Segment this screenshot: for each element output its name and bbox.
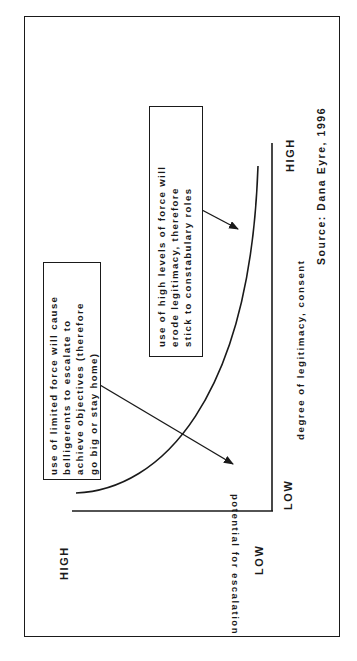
annotation-box-high-force: use of high levels of force will erode l… [149,106,203,357]
annotation-line: use of high levels of force will [155,166,168,347]
source-credit: Source: Dana Eyre, 1996 [316,107,327,265]
y-axis-title: potential for escalation [230,494,241,635]
annotation-box-limited-force: use of limited force will cause belliger… [43,262,101,480]
annotation-text-limited-force: use of limited force will cause belliger… [47,296,100,475]
annotation-line: use of limited force will cause [47,296,60,475]
annotation-line: belligerents to escalate to [60,296,73,475]
x-axis-high-label: HIGH [284,138,296,172]
annotation-line: stick to constabulary roles [181,166,194,347]
arrow-high-force [202,210,238,229]
annotation-line: achieve objectives (therefore [73,296,86,475]
escalation-legitimacy-diagram: use of limited force will cause belliger… [0,0,357,661]
annotation-line: go big or stay home) [87,296,100,475]
annotation-line: erode legitimacy, therefore [168,166,181,347]
annotation-text-high-force: use of high levels of force will erode l… [155,166,195,347]
x-axis-low-label: LOW [282,480,294,510]
y-axis-high-label: HIGH [58,546,70,580]
x-axis-title: degree of legitimacy, consent [295,259,306,440]
y-axis-low-label: LOW [253,545,265,575]
